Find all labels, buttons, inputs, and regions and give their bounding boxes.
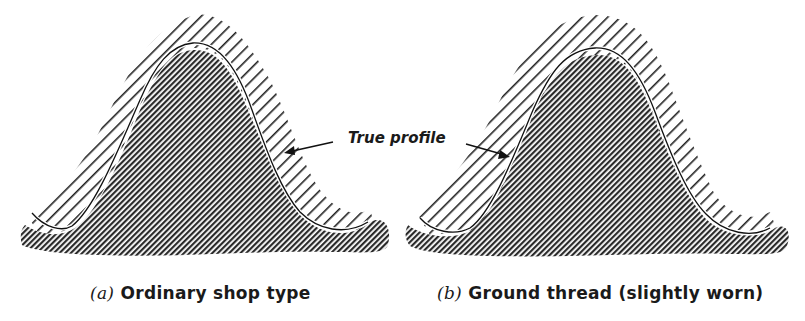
- thread-profile-diagram: [0, 0, 805, 321]
- panel-a-caption-text: Ordinary shop type: [121, 283, 311, 303]
- panel-b-thread-profile: [406, 15, 789, 256]
- panel-a-caption: (a) Ordinary shop type: [90, 283, 311, 303]
- panel-b-caption-letter: (b): [437, 283, 462, 303]
- true-profile-label: True profile: [348, 129, 446, 147]
- panel-b-caption: (b) Ground thread (slightly worn): [437, 283, 763, 303]
- panel-a-caption-letter: (a): [90, 283, 114, 303]
- panel-a-thread-profile: [21, 15, 389, 256]
- panel-b-caption-text: Ground thread (slightly worn): [468, 283, 763, 303]
